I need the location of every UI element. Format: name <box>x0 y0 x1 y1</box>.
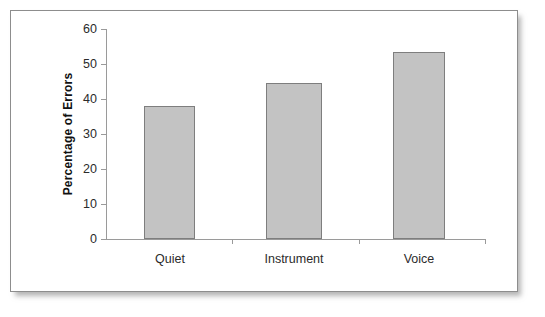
figure-root: Percentage of Errors 60 50 40 30 <box>0 0 545 317</box>
x-axis-tick-2 <box>359 239 360 244</box>
y-tick-label-60: 60 <box>83 21 97 37</box>
y-tick-label-50: 50 <box>83 56 97 72</box>
y-tick-label-10: 10 <box>83 196 97 212</box>
y-axis-line <box>106 29 107 239</box>
x-axis-line <box>106 239 486 240</box>
bar-voice[interactable] <box>393 52 445 239</box>
y-tick-label-20: 20 <box>83 161 97 177</box>
plot-area: 60 50 40 30 20 10 <box>106 29 486 239</box>
x-category-label-instrument: Instrument <box>248 251 340 267</box>
x-category-label-quiet: Quiet <box>124 251 216 267</box>
x-axis-tick-3 <box>485 239 486 244</box>
bar-quiet[interactable] <box>144 106 195 239</box>
y-axis-title: Percentage of Errors <box>60 29 76 239</box>
bar-instrument[interactable] <box>266 83 322 239</box>
y-tick-label-30: 30 <box>83 126 97 142</box>
x-axis-tick-1 <box>232 239 233 244</box>
chart-frame: Percentage of Errors 60 50 40 30 <box>10 10 518 292</box>
y-tick-label-0: 0 <box>90 231 97 247</box>
x-category-label-voice: Voice <box>373 251 465 267</box>
y-tick-label-40: 40 <box>83 91 97 107</box>
